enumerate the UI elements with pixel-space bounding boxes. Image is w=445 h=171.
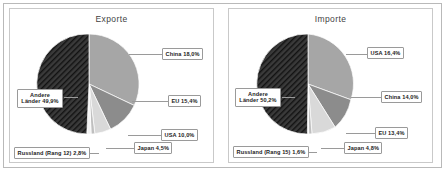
label-andere-laender-exporte: Andere Länder 49,9% bbox=[17, 89, 63, 108]
label-japan-exporte: Japan 4,5% bbox=[134, 142, 172, 154]
pie-chart-importe bbox=[255, 31, 361, 137]
chart-panel-importe: Importe bbox=[228, 8, 433, 163]
leader-line-russland bbox=[89, 153, 99, 154]
leader-line-andere bbox=[64, 97, 78, 98]
pie-slice-andere-laender bbox=[257, 34, 308, 134]
label-japan-importe: Japan 4,8% bbox=[344, 142, 382, 154]
label-andere-laender-importe: Andere Länder 50,2% bbox=[235, 88, 281, 107]
leader-line-usa bbox=[346, 54, 369, 55]
leader-line-eu bbox=[132, 101, 168, 102]
chart-panel-exporte: Exporte bbox=[9, 8, 214, 163]
label-china-importe: China 14,0% bbox=[381, 91, 422, 103]
pie-wrap-exporte: China 18,0% EU 15,4% USA 10,0% Japan 4,5… bbox=[10, 9, 213, 162]
label-usa-exporte: USA 10,0% bbox=[161, 129, 198, 141]
pie-wrap-importe: USA 16,4% China 14,0% EU 13,4% Japan 4,8… bbox=[229, 9, 432, 162]
leader-line-usa bbox=[128, 135, 164, 136]
leader-line-andere bbox=[282, 97, 295, 98]
leader-line-china bbox=[129, 54, 162, 55]
leader-line-china bbox=[351, 97, 381, 98]
label-china-exporte: China 18,0% bbox=[162, 48, 203, 60]
label-eu-importe: EU 13,4% bbox=[375, 127, 408, 139]
leader-line-eu bbox=[346, 133, 375, 134]
label-usa-importe: USA 16,4% bbox=[367, 47, 404, 59]
pie-slice-andere-laender bbox=[37, 34, 89, 134]
label-russland-importe: Russland (Rang 15) 1,6% bbox=[233, 146, 309, 158]
label-russland-exporte: Russland (Rang 12) 2,8% bbox=[14, 147, 90, 159]
page-root: Exporte bbox=[0, 0, 445, 171]
label-eu-exporte: EU 15,4% bbox=[168, 95, 201, 107]
pie-chart-exporte bbox=[36, 31, 142, 137]
